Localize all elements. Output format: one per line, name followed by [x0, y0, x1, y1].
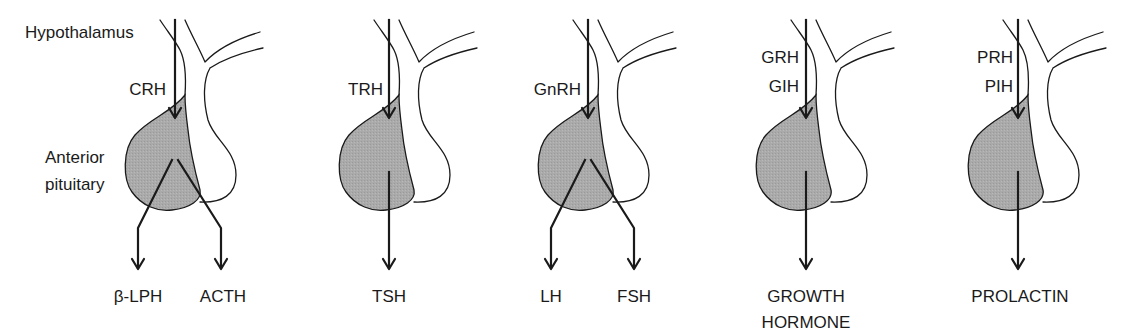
output-hormone-label: β-LPH — [114, 287, 163, 306]
panel-prh: PRH PIH PROLACTIN — [968, 20, 1106, 306]
anterior-pituitary-label-line1: Anterior — [45, 148, 105, 167]
panel-grh: GRH GIH GROWTH HORMONE — [756, 20, 894, 332]
releasing-hormone-label: GRH — [761, 48, 799, 67]
output-hormone-label-line1: GROWTH — [767, 287, 844, 306]
output-hormone-label: PROLACTIN — [971, 287, 1068, 306]
releasing-hormone-label: PRH — [977, 48, 1013, 67]
releasing-hormone-label: CRH — [129, 80, 166, 99]
pituitary-diagram: Hypothalamus CRH Anterior pituitary β-LP… — [0, 0, 1132, 336]
inhibiting-hormone-label: PIH — [985, 77, 1013, 96]
panel-trh: TRH TSH — [339, 20, 477, 306]
output-hormone-label: LH — [540, 287, 562, 306]
pituitary-gland-shape — [339, 20, 477, 210]
panel-crh: Hypothalamus CRH Anterior pituitary β-LP… — [25, 20, 263, 306]
hypothalamus-label: Hypothalamus — [25, 23, 134, 42]
pituitary-gland-shape — [538, 20, 676, 210]
output-hormone-label: FSH — [617, 287, 651, 306]
output-hormone-label: ACTH — [200, 287, 246, 306]
releasing-hormone-label: TRH — [348, 80, 383, 99]
panel-gnrh: GnRH LH FSH — [534, 20, 676, 306]
output-hormone-label-line2: HORMONE — [762, 313, 851, 332]
inhibiting-hormone-label: GIH — [769, 77, 799, 96]
releasing-hormone-label: GnRH — [534, 80, 581, 99]
anterior-pituitary-label-line2: pituitary — [45, 175, 105, 194]
output-hormone-label: TSH — [372, 287, 406, 306]
pituitary-gland-shape — [125, 20, 263, 210]
